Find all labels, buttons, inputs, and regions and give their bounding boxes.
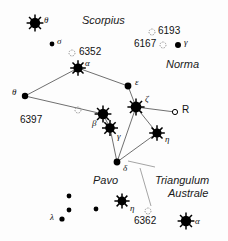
star-label-10: δ (123, 163, 127, 173)
stick-line (25, 68, 78, 96)
star-disc (67, 194, 72, 199)
star-disc (30, 18, 40, 28)
star-label-1: σ (57, 36, 61, 46)
star-chart: 63526397619361676362θσαθεζRβγηδγηαλScorp… (0, 0, 228, 241)
star-disc (152, 128, 161, 137)
constellation-label-triangulum: Triangulum (155, 174, 209, 186)
stick-line (78, 68, 128, 86)
constellation-label-australe: Australe (168, 187, 208, 199)
cluster-icon (160, 42, 166, 48)
cluster-label-6167: 6167 (134, 38, 156, 49)
star-label-5: ζ (145, 94, 149, 104)
star-disc (118, 197, 127, 206)
cluster-label-6362: 6362 (134, 215, 156, 226)
star-label-11: γ (184, 37, 188, 47)
star-disc (67, 208, 72, 213)
star-label-13: α (195, 216, 200, 226)
star-disc (50, 42, 55, 47)
star-label-8: γ (117, 131, 121, 141)
star-disc (114, 159, 121, 166)
stick-line (25, 96, 103, 114)
star-disc (125, 83, 132, 90)
star-label-3: θ (12, 87, 16, 97)
cluster-label-6193: 6193 (158, 25, 180, 36)
star-disc (105, 123, 115, 133)
star-open-disc (172, 109, 177, 114)
cluster-icon (145, 208, 151, 214)
cluster-icon (149, 29, 155, 35)
star-disc (175, 42, 181, 48)
star-disc (59, 216, 64, 221)
star-disc (98, 109, 108, 119)
constellation-boundary-lines (128, 161, 155, 206)
star-disc (22, 93, 28, 99)
star-disc (73, 63, 82, 72)
constellation-label-pavo: Pavo (93, 174, 118, 186)
cluster-label-6397: 6397 (20, 114, 42, 125)
star-label-6: R (182, 104, 189, 115)
star-label-2: α (85, 58, 90, 68)
star-disc (131, 102, 142, 113)
star-label-12: η (130, 203, 134, 213)
stick-line (117, 133, 157, 162)
star-disc (181, 216, 191, 226)
star-label-7: β (92, 118, 96, 128)
star-label-4: ε (135, 77, 139, 87)
cluster-label-6352: 6352 (79, 46, 101, 57)
star-label-9: η (165, 134, 169, 144)
star-label-14: λ (50, 212, 54, 222)
star-disc (94, 207, 99, 212)
boundary-line (128, 161, 155, 167)
cluster-icon (69, 50, 75, 56)
constellation-label-norma: Norma (166, 58, 199, 70)
star-label-0: θ (44, 15, 48, 25)
boundary-line (140, 168, 151, 206)
constellation-label-scorpius: Scorpius (82, 14, 125, 26)
